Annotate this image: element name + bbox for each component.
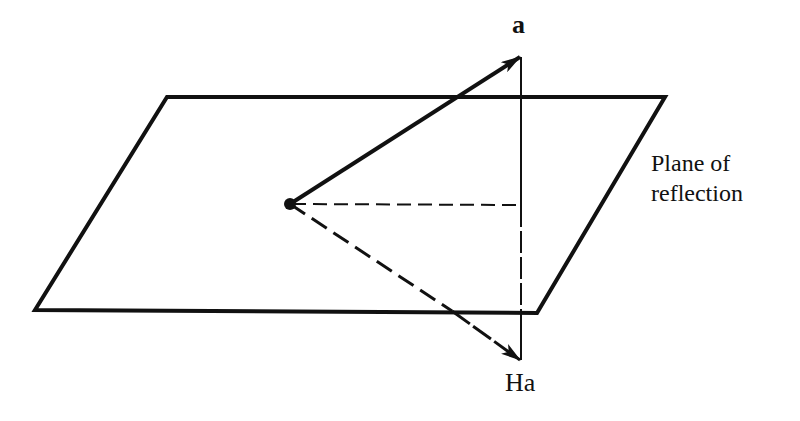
reflection-diagram: [0, 0, 800, 421]
vector-ha: [452, 311, 520, 360]
plane-of-reflection: [35, 97, 665, 313]
reflected-vector-label: Ha: [505, 370, 535, 396]
vector-ha-hidden: [290, 204, 452, 311]
vector-a: [290, 57, 520, 204]
plane-label-line-2: reflection: [651, 178, 743, 208]
vector-a-label: a: [512, 12, 525, 38]
plane-label: Plane of reflection: [651, 148, 743, 208]
plane-label-line-1: Plane of: [651, 148, 743, 178]
projection-line: [292, 204, 521, 205]
origin-point: [284, 198, 296, 210]
